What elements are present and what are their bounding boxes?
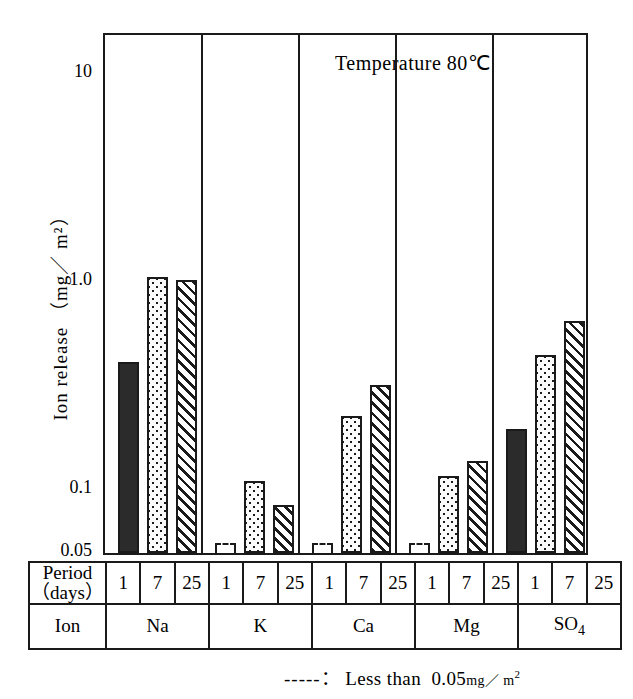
ion-name: Mg — [453, 615, 479, 636]
bar-SO4-25d — [564, 321, 585, 553]
period-cell-11: 25 — [484, 562, 518, 604]
ion-name: Ca — [353, 615, 374, 636]
period-cell-9: 1 — [415, 562, 449, 604]
bar-SO4-1d — [506, 429, 527, 553]
ion-name: SO — [554, 613, 578, 634]
footnote-unit: mg／ m — [466, 673, 514, 688]
period-cell-8: 25 — [381, 562, 415, 604]
table-row-period: Period （days） 17251725172517251725 — [29, 562, 621, 604]
period-row-header: Period （days） — [29, 562, 106, 604]
footnote-value: 0.05 — [431, 668, 466, 689]
bar-Na-25d — [176, 280, 197, 553]
period-cell-13: 7 — [552, 562, 586, 604]
ion-name: K — [254, 615, 268, 636]
period-cell-10: 7 — [449, 562, 483, 604]
period-cell-2: 25 — [175, 562, 209, 604]
period-label-line1: Period — [30, 563, 105, 583]
y-axis-title: Ion release （mg／ m²） — [45, 134, 72, 494]
table-row-ion: Ion NaKCaMgSO4 — [29, 604, 621, 649]
period-cell-4: 7 — [243, 562, 277, 604]
period-cell-5: 25 — [278, 562, 312, 604]
ion-cell-so4: SO4 — [518, 604, 621, 649]
ion-name: Na — [146, 615, 168, 636]
footnote: -----： Less than 0.05mg／ m2 — [284, 663, 520, 690]
bar-Ca-7d — [341, 416, 362, 553]
y-tick-label-0: 10 — [40, 62, 92, 80]
temperature-annotation: Temperature 80℃ — [335, 51, 490, 75]
group-separator-K — [201, 35, 203, 553]
bar-Ca-25d — [370, 385, 391, 553]
bar-K-7d — [244, 481, 265, 553]
period-ion-table: Period （days） 17251725172517251725 Ion N… — [28, 561, 622, 650]
period-label-line2: （days） — [30, 583, 105, 603]
ion-release-bar-chart: Ion release （mg／ m²） 101.00.10.05 Temper… — [0, 0, 633, 699]
period-cell-1: 7 — [140, 562, 174, 604]
y-tick-label-1: 1.0 — [40, 270, 92, 288]
ion-cell-ca: Ca — [312, 604, 415, 649]
group-separator-SO4 — [492, 35, 494, 553]
period-cell-12: 1 — [518, 562, 552, 604]
y-tick-label-3: 0.05 — [40, 541, 92, 559]
period-cell-7: 7 — [346, 562, 380, 604]
footnote-dashes: ----- — [284, 668, 321, 689]
y-tick-label-2: 0.1 — [40, 478, 92, 496]
bar-Mg-25d — [467, 461, 488, 553]
period-cell-6: 1 — [312, 562, 346, 604]
bar-Mg-7d — [438, 476, 459, 553]
bar-Na-1d — [118, 362, 139, 553]
footnote-separator: ： — [321, 668, 340, 689]
ion-cell-mg: Mg — [415, 604, 518, 649]
bar-below-limit-Mg-1d — [409, 543, 430, 553]
bar-below-limit-K-1d — [215, 543, 236, 553]
group-separator-Mg — [395, 35, 397, 553]
plot-area: Temperature 80℃ — [103, 33, 588, 555]
group-separator-Ca — [298, 35, 300, 553]
ion-row-header: Ion — [29, 604, 106, 649]
ion-cell-k: K — [209, 604, 312, 649]
ion-cell-na: Na — [106, 604, 209, 649]
period-cell-0: 1 — [106, 562, 140, 604]
bar-K-25d — [273, 505, 294, 553]
ion-subscript: 4 — [578, 623, 585, 638]
period-cell-14: 25 — [587, 562, 621, 604]
bar-SO4-7d — [535, 355, 556, 553]
footnote-unit-exponent: 2 — [515, 668, 521, 680]
period-cell-3: 1 — [209, 562, 243, 604]
bar-Na-7d — [147, 277, 168, 553]
footnote-text: Less than — [345, 668, 421, 689]
bar-below-limit-Ca-1d — [312, 543, 333, 553]
